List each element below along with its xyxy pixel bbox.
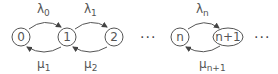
arrow-mun1 — [186, 46, 220, 52]
label-mun1: μn+1 — [199, 58, 226, 73]
label-mu2: μ2 — [84, 58, 97, 73]
birth-death-diagram: 0 1 2 n n+1 λ0 λ1 λn μ1 μ2 μn+1 ··· ··· — [0, 0, 278, 74]
label-lambda1: λ1 — [84, 3, 97, 18]
label-mu1: μ1 — [37, 58, 50, 73]
node-n1-label: n+1 — [213, 31, 243, 43]
node-0-label: 0 — [15, 31, 27, 43]
node-2-label: 2 — [108, 31, 120, 43]
arrow-lambdan — [188, 23, 219, 29]
label-lambda0: λ0 — [37, 3, 50, 18]
node-n-label: n — [174, 31, 186, 43]
arrow-lambda1 — [75, 22, 107, 29]
node-1-label: 1 — [61, 31, 73, 43]
ellipsis-middle: ··· — [140, 30, 156, 44]
arrow-lambda0 — [29, 22, 61, 29]
arrow-mu1 — [27, 47, 61, 52]
label-lambdan: λn — [196, 3, 209, 18]
arrow-mu2 — [73, 47, 107, 52]
ellipsis-end: ··· — [254, 30, 270, 44]
